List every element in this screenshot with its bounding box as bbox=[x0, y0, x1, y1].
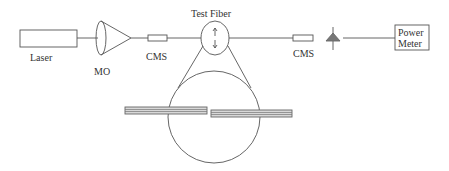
laser-label: Laser bbox=[30, 52, 53, 63]
power-meter-label-line1: Power bbox=[398, 27, 424, 38]
plate-right bbox=[211, 110, 292, 117]
cms-input-box bbox=[148, 35, 167, 41]
tangent-line-right bbox=[228, 46, 251, 88]
power-meter-label-line2: Meter bbox=[398, 38, 423, 49]
optical-setup-diagram: Laser MO CMS Test Fiber CMS Power Meter bbox=[0, 0, 449, 171]
mo-cone bbox=[101, 21, 131, 55]
laser-box bbox=[20, 30, 77, 47]
cms-input-label: CMS bbox=[146, 51, 167, 62]
plate-left bbox=[125, 107, 207, 114]
mo-label: MO bbox=[94, 66, 110, 77]
cms-output-box bbox=[293, 35, 313, 41]
tangent-line-left bbox=[178, 46, 203, 88]
test-fiber-label: Test Fiber bbox=[191, 8, 232, 19]
photodetector-icon bbox=[326, 33, 340, 41]
test-fiber-oval bbox=[201, 21, 229, 55]
cms-output-label: CMS bbox=[293, 48, 314, 59]
